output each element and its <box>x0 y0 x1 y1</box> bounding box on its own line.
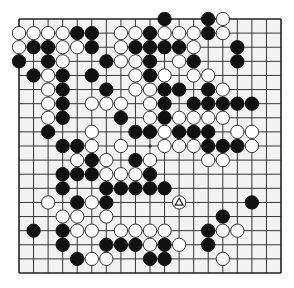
black-stone[interactable] <box>85 26 98 39</box>
black-stone[interactable] <box>27 224 40 237</box>
black-stone[interactable] <box>85 153 98 166</box>
go-board[interactable] <box>0 0 294 288</box>
white-stone[interactable] <box>187 26 200 39</box>
white-stone[interactable] <box>202 111 215 124</box>
black-stone[interactable] <box>85 69 98 82</box>
black-stone[interactable] <box>85 168 98 181</box>
white-stone[interactable] <box>12 26 25 39</box>
white-stone[interactable] <box>143 97 156 110</box>
black-stone[interactable] <box>143 55 156 68</box>
black-stone[interactable] <box>216 139 229 152</box>
white-stone[interactable] <box>85 97 98 110</box>
black-stone[interactable] <box>143 125 156 138</box>
white-stone[interactable] <box>129 55 142 68</box>
white-stone[interactable] <box>100 97 113 110</box>
black-stone[interactable] <box>143 252 156 265</box>
black-stone[interactable] <box>41 125 54 138</box>
black-stone[interactable] <box>143 41 156 54</box>
white-stone[interactable] <box>158 26 171 39</box>
white-stone[interactable] <box>172 139 185 152</box>
black-stone[interactable] <box>71 26 84 39</box>
white-stone[interactable] <box>71 210 84 223</box>
white-stone[interactable] <box>216 111 229 124</box>
black-stone[interactable] <box>56 69 69 82</box>
black-stone[interactable] <box>41 41 54 54</box>
black-stone[interactable] <box>143 26 156 39</box>
white-stone[interactable] <box>85 196 98 209</box>
black-stone[interactable] <box>158 182 171 195</box>
white-stone[interactable] <box>129 26 142 39</box>
black-stone[interactable] <box>56 83 69 96</box>
white-stone[interactable] <box>100 153 113 166</box>
black-stone[interactable] <box>100 83 113 96</box>
black-stone[interactable] <box>129 125 142 138</box>
white-stone[interactable] <box>56 41 69 54</box>
black-stone[interactable] <box>100 55 113 68</box>
white-stone[interactable] <box>56 210 69 223</box>
white-stone[interactable] <box>114 97 127 110</box>
black-stone[interactable] <box>100 196 113 209</box>
black-stone[interactable] <box>245 97 258 110</box>
black-stone[interactable] <box>114 111 127 124</box>
white-stone[interactable] <box>158 224 171 237</box>
black-stone[interactable] <box>158 111 171 124</box>
white-stone[interactable] <box>158 125 171 138</box>
white-stone[interactable] <box>114 139 127 152</box>
black-stone[interactable] <box>202 139 215 152</box>
white-stone[interactable] <box>56 26 69 39</box>
black-stone[interactable] <box>12 55 25 68</box>
black-stone[interactable] <box>231 55 244 68</box>
black-stone[interactable] <box>56 111 69 124</box>
black-stone[interactable] <box>245 196 258 209</box>
black-stone[interactable] <box>114 182 127 195</box>
black-stone[interactable] <box>100 182 113 195</box>
white-stone[interactable] <box>12 41 25 54</box>
white-stone[interactable] <box>216 83 229 96</box>
black-stone[interactable] <box>56 168 69 181</box>
white-stone[interactable] <box>172 26 185 39</box>
black-stone[interactable] <box>202 125 215 138</box>
black-stone[interactable] <box>143 168 156 181</box>
white-stone[interactable] <box>216 252 229 265</box>
white-stone[interactable] <box>172 238 185 251</box>
white-stone[interactable] <box>216 12 229 25</box>
white-stone[interactable] <box>114 26 127 39</box>
black-stone[interactable] <box>85 41 98 54</box>
black-stone[interactable] <box>56 224 69 237</box>
black-stone[interactable] <box>27 69 40 82</box>
white-stone[interactable] <box>172 55 185 68</box>
white-stone[interactable] <box>71 224 84 237</box>
white-stone[interactable] <box>216 224 229 237</box>
white-stone[interactable] <box>114 168 127 181</box>
black-stone[interactable] <box>172 125 185 138</box>
black-stone[interactable] <box>187 125 200 138</box>
white-stone[interactable] <box>41 196 54 209</box>
white-stone[interactable] <box>202 153 215 166</box>
white-stone[interactable] <box>129 69 142 82</box>
white-stone[interactable] <box>85 139 98 152</box>
black-stone[interactable] <box>114 238 127 251</box>
black-stone[interactable] <box>56 182 69 195</box>
white-stone[interactable] <box>41 83 54 96</box>
black-stone[interactable] <box>56 97 69 110</box>
white-stone[interactable] <box>202 69 215 82</box>
white-stone[interactable] <box>216 153 229 166</box>
black-stone[interactable] <box>143 69 156 82</box>
white-stone[interactable] <box>187 69 200 82</box>
black-stone[interactable] <box>71 252 84 265</box>
white-stone[interactable] <box>71 41 84 54</box>
black-stone[interactable] <box>56 139 69 152</box>
white-stone[interactable] <box>85 252 98 265</box>
black-stone[interactable] <box>71 139 84 152</box>
black-stone[interactable] <box>71 196 84 209</box>
black-stone[interactable] <box>202 83 215 96</box>
white-stone[interactable] <box>56 55 69 68</box>
white-stone[interactable] <box>143 111 156 124</box>
black-stone[interactable] <box>129 153 142 166</box>
black-stone[interactable] <box>56 238 69 251</box>
black-stone[interactable] <box>216 97 229 110</box>
black-stone[interactable] <box>202 12 215 25</box>
black-stone[interactable] <box>158 238 171 251</box>
white-stone[interactable] <box>71 153 84 166</box>
white-stone[interactable] <box>158 139 171 152</box>
